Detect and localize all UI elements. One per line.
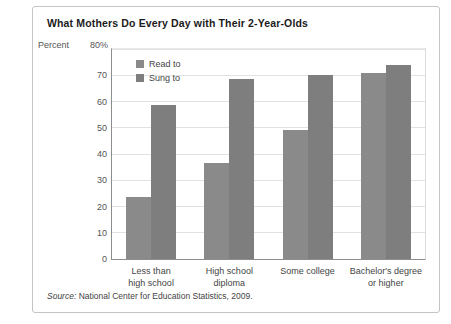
source-text: National Center for Education Statistics… bbox=[79, 291, 253, 301]
y-axis-tick-label: 70 bbox=[97, 70, 107, 80]
y-axis-title: Percent bbox=[38, 40, 69, 50]
bar-sung-to-1 bbox=[229, 79, 254, 259]
x-axis-tick-label: Less thanhigh school bbox=[112, 265, 190, 289]
source-prefix: Source: bbox=[47, 291, 76, 301]
y-axis-tick-label: 50 bbox=[97, 123, 107, 133]
y-axis-tick-label: 30 bbox=[97, 175, 107, 185]
x-axis-tick-label-line: diploma bbox=[190, 277, 268, 289]
bar-read-to-0 bbox=[126, 197, 151, 259]
bar-read-to-3 bbox=[361, 73, 386, 259]
x-axis-tick-label: Some college bbox=[269, 265, 347, 277]
bar-sung-to-0 bbox=[151, 105, 176, 259]
y-axis-top-tick: 80% bbox=[90, 40, 108, 50]
y-axis-tick-label: 60 bbox=[97, 97, 107, 107]
x-axis-tick-label-line: Less than bbox=[112, 265, 190, 277]
legend-label: Read to bbox=[149, 59, 181, 69]
bar-sung-to-3 bbox=[386, 65, 411, 259]
bar-read-to-2 bbox=[283, 130, 308, 259]
legend-item[interactable]: Sung to bbox=[136, 71, 181, 84]
chart-figure: What Mothers Do Every Day with Their 2-Y… bbox=[32, 6, 440, 313]
x-axis-tick-label-line: high school bbox=[112, 277, 190, 289]
x-axis-tick-label-line: Bachelor's degree bbox=[347, 265, 425, 277]
source-note: Source: National Center for Education St… bbox=[47, 291, 253, 301]
y-axis-tick-label: 40 bbox=[97, 149, 107, 159]
x-axis-tick-label: High schooldiploma bbox=[190, 265, 268, 289]
chart-legend: Read toSung to bbox=[136, 57, 181, 85]
x-axis-tick-label-line: Some college bbox=[269, 265, 347, 277]
x-axis-tick-label-line: or higher bbox=[347, 277, 425, 289]
legend-item[interactable]: Read to bbox=[136, 57, 181, 70]
x-axis-tick-label-line: High school bbox=[190, 265, 268, 277]
legend-swatch-icon bbox=[136, 74, 144, 82]
x-axis-tick-label: Bachelor's degreeor higher bbox=[347, 265, 425, 289]
y-axis-tick-label: 0 bbox=[102, 254, 107, 264]
plot-area: 010203040506070Less thanhigh schoolHigh … bbox=[111, 48, 426, 260]
plot-inner: 010203040506070Less thanhigh schoolHigh … bbox=[112, 49, 425, 259]
legend-label: Sung to bbox=[149, 73, 180, 83]
chart-title: What Mothers Do Every Day with Their 2-Y… bbox=[47, 17, 308, 29]
gridline bbox=[112, 49, 425, 50]
y-axis-tick-label: 10 bbox=[97, 228, 107, 238]
legend-swatch-icon bbox=[136, 60, 144, 68]
bar-read-to-1 bbox=[204, 163, 229, 259]
y-axis-tick-label: 20 bbox=[97, 202, 107, 212]
bar-sung-to-2 bbox=[308, 75, 333, 259]
